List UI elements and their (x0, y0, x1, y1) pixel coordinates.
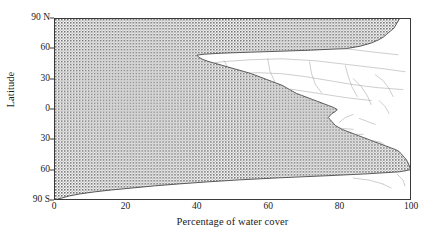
land-coastline-outlines (55, 19, 410, 200)
y-tick-label: 90 N (31, 13, 50, 23)
y-tick-mark (50, 109, 54, 110)
x-tick-label: 0 (52, 202, 57, 212)
y-tick-label: 60 (41, 165, 51, 175)
x-tick-label: 80 (335, 202, 345, 212)
y-tick-mark (50, 48, 54, 49)
x-tick-label: 100 (404, 202, 418, 212)
x-tick-label: 60 (263, 202, 273, 212)
x-axis-title: Percentage of water cover (54, 216, 411, 227)
figure-water-cover-by-latitude: 90 N60300306090 S 020406080100 Percentag… (0, 0, 433, 240)
y-tick-mark (50, 169, 54, 170)
y-axis-title: Latitude (5, 50, 16, 130)
y-tick-label: 30 (41, 74, 51, 84)
y-tick-label: 30 (41, 135, 51, 145)
y-tick-mark (50, 139, 54, 140)
x-tick-label: 20 (121, 202, 131, 212)
x-tick-label: 40 (192, 202, 202, 212)
y-tick-mark (50, 78, 54, 79)
y-tick-label: 60 (41, 44, 51, 54)
y-tick-mark (50, 18, 54, 19)
y-tick-label: 90 S (33, 195, 50, 205)
plot-area (54, 18, 411, 200)
